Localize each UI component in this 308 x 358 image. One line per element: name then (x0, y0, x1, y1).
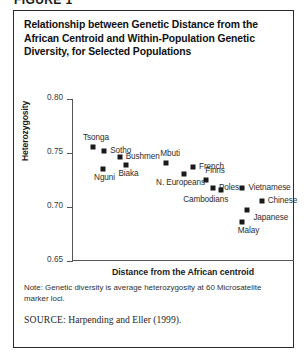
figure-source: SOURCE: Harpending and Eller (1999). (24, 314, 280, 325)
y-axis-tick-label: 0.75 (47, 147, 63, 156)
x-axis-line (72, 260, 294, 261)
data-point-marker (102, 148, 107, 153)
data-point-label: Biaka (118, 169, 138, 178)
data-point-marker (219, 187, 224, 192)
data-point-label: Vietnamese (248, 183, 290, 192)
data-point-marker (190, 165, 195, 170)
data-point-marker (117, 155, 122, 160)
x-axis-label: Distance from the African centroid (72, 267, 294, 277)
figure-title: Relationship between Genetic Distance fr… (24, 18, 282, 59)
data-point-marker (245, 208, 250, 213)
figure-container: Relationship between Genetic Distance fr… (13, 10, 294, 348)
y-axis-tick-label: 0.80 (47, 93, 63, 102)
y-axis-tick: 0.75 (67, 153, 73, 154)
y-axis-tick: 0.80 (67, 99, 73, 100)
y-axis-tick-label: 0.65 (47, 255, 63, 264)
y-axis-label: Heterozygosity (20, 101, 30, 161)
data-point-label: Cambodians (183, 195, 228, 204)
plot-area: 0.800.750.700.65TsongaSothoBushmenNguniB… (72, 99, 294, 261)
source-keyword: SOURCE: (24, 314, 66, 325)
data-point-label: Mbuti (160, 149, 180, 158)
data-point-label: Japanese (253, 213, 288, 222)
data-point-marker (124, 162, 129, 167)
data-point-marker (210, 185, 215, 190)
y-axis-tick-label: 0.70 (47, 201, 63, 210)
data-point-label: Tsonga (83, 133, 109, 142)
data-point-marker (259, 198, 264, 203)
data-point-label: Nguni (94, 173, 115, 182)
figure-label: FIGURE 1 (14, 0, 73, 7)
y-axis-tick: 0.65 (67, 261, 73, 262)
source-text: Harpending and Eller (1999). (68, 314, 181, 325)
y-axis-line (72, 99, 73, 261)
data-point-marker (204, 178, 209, 183)
data-point-label: Malay (238, 226, 259, 235)
data-point-label: Bushmen (126, 152, 160, 161)
data-point-marker (164, 160, 169, 165)
figure-note: Note: Genetic diversity is average heter… (24, 283, 280, 304)
data-point-marker (101, 167, 106, 172)
data-point-label: N. Europeans (156, 178, 205, 187)
data-point-marker (239, 220, 244, 225)
y-axis-tick: 0.70 (67, 207, 73, 208)
data-point-marker (91, 144, 96, 149)
data-point-marker (182, 171, 187, 176)
data-point-marker (240, 185, 245, 190)
scatter-chart: Heterozygosity 0.800.750.700.65TsongaSot… (14, 69, 295, 274)
data-point-label: Finns (205, 166, 225, 175)
data-point-label: Chinese (268, 196, 297, 205)
